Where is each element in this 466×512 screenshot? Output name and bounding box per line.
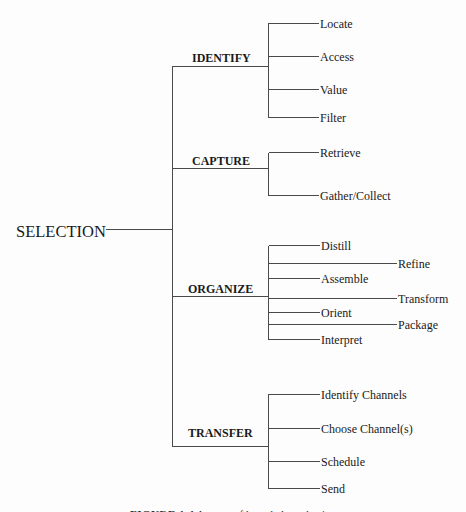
leaf-label-transform: Transform <box>398 292 449 306</box>
leaf-label-distill: Distill <box>321 239 352 253</box>
leaf-label-access: Access <box>320 50 354 64</box>
root-node-label: SELECTION <box>16 222 106 241</box>
leaf-label-refine: Refine <box>398 257 430 271</box>
branch-organize: ORGANIZE Distill Refine Assemble Transfo… <box>173 239 449 347</box>
leaf-label-orient: Orient <box>321 306 352 320</box>
selection-tree-diagram: SELECTION IDENTIFY Locate Access Value F… <box>0 0 466 512</box>
leaf-label-schedule: Schedule <box>321 455 365 469</box>
leaf-label-gather-collect: Gather/Collect <box>320 189 391 203</box>
diagram-svg: SELECTION IDENTIFY Locate Access Value F… <box>0 0 466 512</box>
leaf-label-locate: Locate <box>320 17 353 31</box>
leaf-label-interpret: Interpret <box>321 333 363 347</box>
figure-caption-text: Aspects of knowledge selection <box>196 508 336 512</box>
leaf-label-send: Send <box>321 482 345 496</box>
branch-label-identify: IDENTIFY <box>192 51 251 65</box>
leaf-label-identify-channels: Identify Channels <box>321 388 407 402</box>
leaf-label-assemble: Assemble <box>321 272 368 286</box>
branch-identify: IDENTIFY Locate Access Value Filter <box>173 17 355 125</box>
figure-caption: FIGURE 1.4 Aspects of knowledge selectio… <box>0 508 466 512</box>
leaf-label-filter: Filter <box>320 111 346 125</box>
leaf-label-value: Value <box>320 83 347 97</box>
branch-label-organize: ORGANIZE <box>188 282 253 296</box>
leaf-label-retrieve: Retrieve <box>320 146 361 160</box>
branch-label-capture: CAPTURE <box>192 154 250 168</box>
branch-capture: CAPTURE Retrieve Gather/Collect <box>173 146 392 203</box>
leaf-label-package: Package <box>398 318 438 332</box>
branch-transfer: TRANSFER Identify Channels Choose Channe… <box>173 388 413 496</box>
branch-label-transfer: TRANSFER <box>188 426 253 440</box>
leaf-label-choose-channels: Choose Channel(s) <box>321 422 413 436</box>
figure-number: FIGURE 1.4 <box>130 508 194 512</box>
